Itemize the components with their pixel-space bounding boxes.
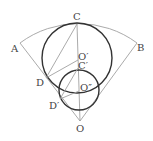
label-C: C — [73, 12, 81, 22]
label-B: B — [137, 43, 144, 53]
label-D: D — [36, 78, 44, 88]
label-A: A — [11, 44, 18, 54]
label-C-prime: C′ — [78, 61, 88, 71]
label-O: O — [76, 124, 84, 134]
segment-OC — [77, 24, 80, 121]
geometry-diagram: A B C D D′ O O′ C′ O″ — [0, 0, 153, 141]
label-O-double-prime: O″ — [80, 83, 92, 93]
sector-arc — [20, 24, 137, 43]
segment-CD — [46, 24, 77, 78]
label-D-prime: D′ — [49, 101, 59, 111]
